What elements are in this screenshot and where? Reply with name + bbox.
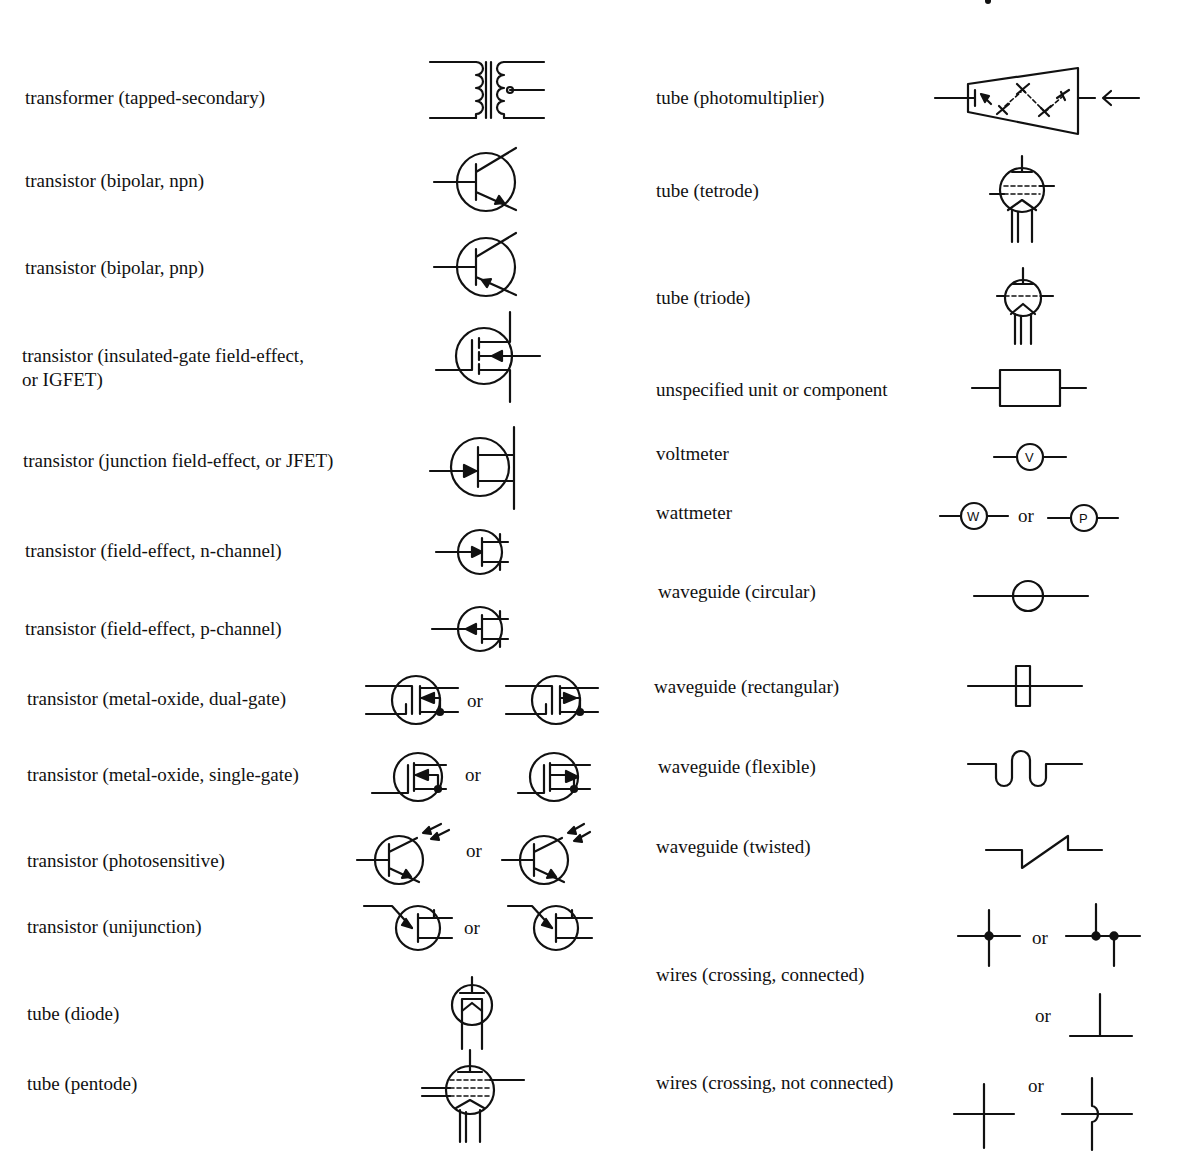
svg-text:P: P xyxy=(1079,511,1088,526)
or-wattmeter: or xyxy=(1018,505,1034,527)
transistor-igfet-icon xyxy=(432,310,542,405)
transistor-jfet-icon xyxy=(428,425,528,505)
label-transistor-igfet-line2: or IGFET) xyxy=(22,369,103,391)
transistor-mos-dual-gate-icon xyxy=(362,668,462,733)
tube-pentode-icon xyxy=(420,1050,530,1150)
transistor-n-channel-icon xyxy=(432,524,522,584)
waveguide-twisted-icon xyxy=(984,830,1104,875)
label-tube-pentode: tube (pentode) xyxy=(27,1073,137,1095)
label-transistor-mos-dual-gate: transistor (metal-oxide, dual-gate) xyxy=(27,688,286,710)
label-waveguide-flexible: waveguide (flexible) xyxy=(658,756,816,778)
label-tube-tetrode: tube (tetrode) xyxy=(656,180,759,202)
or-wires-not-connected: or xyxy=(1028,1075,1044,1097)
transistor-unijunction-icon xyxy=(362,900,472,960)
transistor-npn-icon xyxy=(432,148,522,218)
wires-not-connected-hop-icon xyxy=(1060,1076,1140,1152)
wires-connected-double-t-icon xyxy=(1064,900,1144,970)
wires-connected-cross-icon xyxy=(956,906,1026,968)
svg-text:W: W xyxy=(967,509,980,524)
wattmeter-w-icon: W xyxy=(938,500,1018,532)
or-photosensitive: or xyxy=(466,840,482,862)
label-voltmeter: voltmeter xyxy=(656,443,729,465)
waveguide-flexible-icon xyxy=(966,742,1086,792)
or-wires-connected-2: or xyxy=(1035,1005,1051,1027)
label-wattmeter: wattmeter xyxy=(656,502,732,524)
waveguide-rectangular-icon xyxy=(966,664,1086,708)
label-waveguide-twisted: waveguide (twisted) xyxy=(656,836,811,858)
label-waveguide-rectangular: waveguide (rectangular) xyxy=(654,676,839,698)
wires-connected-t-icon xyxy=(1068,990,1138,1040)
tube-tetrode-icon xyxy=(988,152,1058,247)
label-unspecified-unit: unspecified unit or component xyxy=(656,379,888,401)
label-transistor-jfet: transistor (junction field-effect, or JF… xyxy=(23,450,333,472)
label-transistor-n-channel: transistor (field-effect, n-channel) xyxy=(25,540,282,562)
voltmeter-icon: V xyxy=(992,441,1072,473)
label-waveguide-circular: waveguide (circular) xyxy=(658,581,816,603)
unspecified-unit-icon xyxy=(970,368,1090,408)
tube-photomultiplier-icon xyxy=(933,60,1143,140)
transistor-p-channel-icon xyxy=(428,601,518,661)
label-transistor-p-channel: transistor (field-effect, p-channel) xyxy=(25,618,282,640)
transistor-pnp-icon xyxy=(432,233,522,303)
or-mos-dual: or xyxy=(467,690,483,712)
waveguide-circular-icon xyxy=(972,576,1092,616)
label-tube-triode: tube (triode) xyxy=(656,287,750,309)
svg-text:V: V xyxy=(1025,450,1034,465)
transistor-mos-single-gate-alt-icon xyxy=(516,747,616,812)
label-transistor-mos-single-gate: transistor (metal-oxide, single-gate) xyxy=(27,764,299,786)
label-transistor-unijunction: transistor (unijunction) xyxy=(27,916,202,938)
wattmeter-p-icon: P xyxy=(1046,502,1126,534)
transistor-mos-dual-gate-alt-icon xyxy=(502,668,602,733)
label-transistor-photosensitive: transistor (photosensitive) xyxy=(27,850,225,872)
label-wires-crossing-not-connected: wires (crossing, not connected) xyxy=(656,1072,893,1094)
label-tube-photomultiplier: tube (photomultiplier) xyxy=(656,87,824,109)
transistor-photosensitive-icon xyxy=(355,820,465,890)
tube-triode-icon xyxy=(995,266,1055,348)
transformer-tapped-secondary-icon xyxy=(428,58,548,128)
transistor-mos-single-gate-icon xyxy=(370,747,470,812)
page-edge-mark xyxy=(985,0,991,4)
label-transistor-pnp: transistor (bipolar, pnp) xyxy=(25,257,204,279)
transistor-unijunction-alt-icon xyxy=(506,900,616,960)
tube-diode-icon xyxy=(448,975,508,1055)
label-transformer: transformer (tapped-secondary) xyxy=(25,87,265,109)
label-transistor-igfet: transistor (insulated-gate field-effect, xyxy=(22,345,304,367)
label-tube-diode: tube (diode) xyxy=(27,1003,119,1025)
wires-not-connected-cross-icon xyxy=(952,1080,1022,1152)
or-wires-connected-1: or xyxy=(1032,927,1048,949)
transistor-photosensitive-alt-icon xyxy=(500,820,610,890)
label-wires-crossing-connected: wires (crossing, connected) xyxy=(656,964,864,986)
label-transistor-npn: transistor (bipolar, npn) xyxy=(25,170,204,192)
